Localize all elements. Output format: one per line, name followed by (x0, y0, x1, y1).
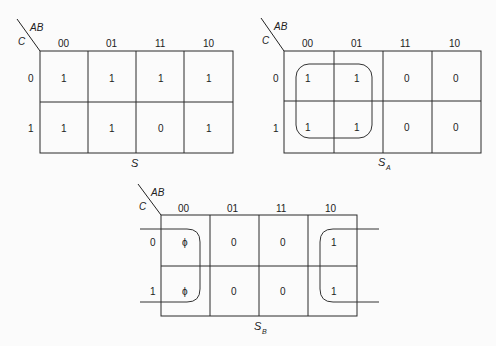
cell: 0 (158, 123, 164, 134)
cell: 1 (109, 123, 115, 134)
cell: 1 (331, 237, 337, 248)
cell: 1 (206, 73, 212, 84)
cell: 1 (305, 122, 311, 133)
cell: 0 (280, 286, 286, 297)
col-header: 10 (203, 38, 215, 49)
row-var-label: C (262, 35, 270, 46)
cell: ϕ (182, 237, 188, 248)
col-var-label: AB (273, 21, 288, 32)
row-header: 1 (150, 286, 156, 297)
col-header: 10 (449, 38, 461, 49)
map-caption: S (131, 157, 139, 169)
cell: 0 (280, 237, 286, 248)
row-var-label: C (139, 201, 147, 212)
cell: 1 (354, 122, 360, 133)
map-caption: S (254, 320, 262, 332)
cell: 1 (305, 73, 311, 84)
row-header: 1 (273, 123, 279, 134)
cell: ϕ (182, 286, 188, 297)
cell: 0 (453, 73, 459, 84)
kmap-s: AB C 00 01 11 10 0 1 1 1 1 1 1 1 0 1 S (17, 19, 233, 169)
col-header: 01 (106, 38, 118, 49)
row-header: 0 (273, 73, 279, 84)
col-header: 10 (325, 203, 337, 214)
col-header: 11 (276, 203, 287, 214)
cell: 1 (354, 73, 360, 84)
kmap-sa: AB C 00 01 11 10 0 1 1 1 0 0 1 1 0 0 S A (261, 18, 481, 171)
row-header: 0 (150, 237, 156, 248)
col-header: 01 (227, 203, 239, 214)
col-header: 11 (400, 38, 411, 49)
col-header: 00 (302, 38, 314, 49)
cell: 1 (158, 73, 164, 84)
map-caption: S (378, 156, 386, 168)
cell: 0 (404, 73, 410, 84)
cell: 0 (231, 237, 237, 248)
row-header: 1 (28, 123, 34, 134)
cell: 1 (331, 286, 337, 297)
cell: 1 (109, 73, 115, 84)
row-var-label: C (18, 36, 26, 47)
cell: 0 (404, 122, 410, 133)
cell: 0 (453, 122, 459, 133)
kmap-figure: AB C 00 01 11 10 0 1 1 1 1 1 1 1 0 1 S A… (0, 0, 496, 346)
cell: 1 (61, 123, 67, 134)
col-header: 00 (178, 203, 190, 214)
col-header: 11 (155, 38, 166, 49)
kmap-sb: AB C 00 01 11 10 0 1 ϕ 0 0 1 ϕ 0 0 1 S B (138, 184, 379, 335)
map-caption-subscript: B (262, 328, 267, 335)
row-header: 0 (28, 73, 34, 84)
cell: 0 (231, 286, 237, 297)
cell: 1 (206, 123, 212, 134)
col-header: 00 (58, 38, 70, 49)
cell: 1 (61, 73, 67, 84)
map-caption-subscript: A (385, 164, 391, 171)
col-var-label: AB (150, 187, 165, 198)
col-header: 01 (351, 38, 363, 49)
col-var-label: AB (29, 22, 44, 33)
